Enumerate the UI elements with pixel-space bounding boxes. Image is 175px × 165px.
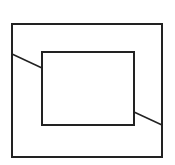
- inner-rectangle: [42, 52, 134, 125]
- outer-rectangle: [12, 24, 162, 157]
- diagram-canvas: [0, 0, 175, 165]
- right-connector-line: [134, 112, 162, 125]
- left-connector-line: [12, 54, 42, 68]
